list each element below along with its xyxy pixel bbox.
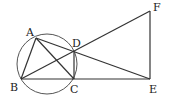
segment-AE bbox=[36, 38, 150, 79]
label-A: A bbox=[25, 26, 35, 39]
geometry-diagram: A B C D E F bbox=[0, 0, 169, 103]
label-D: D bbox=[72, 37, 81, 50]
label-E: E bbox=[149, 83, 157, 96]
label-C: C bbox=[70, 83, 78, 96]
segment-AC bbox=[36, 38, 74, 79]
label-B: B bbox=[10, 81, 18, 94]
segment-BF bbox=[21, 11, 150, 79]
label-F: F bbox=[153, 1, 161, 14]
